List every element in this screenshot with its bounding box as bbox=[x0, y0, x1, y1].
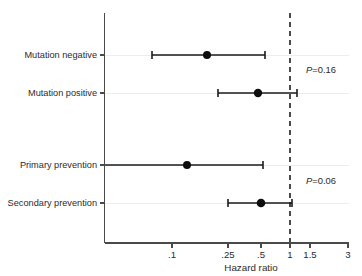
estimate-marker-row-4 bbox=[257, 199, 266, 208]
y-axis-ticks bbox=[100, 55, 105, 203]
estimate-marker-row-2 bbox=[254, 89, 262, 97]
x-tick-label-0.25: .25 bbox=[221, 249, 234, 260]
y-axis-label-mutation-negative: Mutation negative bbox=[24, 50, 97, 60]
x-axis-tick-labels: .1 .25 .5 1 1.5 3 bbox=[168, 249, 351, 260]
forest-row-mutation-negative bbox=[152, 51, 265, 59]
forest-row-primary-prevention bbox=[105, 161, 263, 169]
x-tick-label-0.1: .1 bbox=[168, 249, 176, 260]
pvalue-annotation-mutation-status: P=0.16 bbox=[306, 64, 336, 75]
x-tick-label-0.5: .5 bbox=[257, 249, 265, 260]
forest-row-mutation-positive bbox=[218, 89, 297, 97]
pvalue-annotation-prevention-type: P=0.06 bbox=[306, 175, 336, 186]
forest-plot-svg: Mutation negative Mutation positive Prim… bbox=[0, 0, 362, 276]
x-tick-label-1.5: 1.5 bbox=[303, 249, 316, 260]
x-axis-ticks bbox=[172, 243, 348, 248]
estimate-marker-row-1 bbox=[203, 51, 211, 59]
y-axis-label-secondary-prevention: Secondary prevention bbox=[8, 198, 97, 208]
y-axis-label-primary-prevention: Primary prevention bbox=[20, 160, 97, 170]
y-axis-label-mutation-positive: Mutation positive bbox=[28, 88, 97, 98]
pvalue-value-lower: =0.06 bbox=[312, 175, 336, 186]
pvalue-value-upper: =0.16 bbox=[312, 64, 336, 75]
x-tick-label-3: 3 bbox=[345, 249, 350, 260]
estimate-marker-row-3 bbox=[183, 161, 191, 169]
forest-row-secondary-prevention bbox=[228, 199, 292, 208]
forest-plot-figure: Mutation negative Mutation positive Prim… bbox=[0, 0, 362, 276]
x-tick-label-1: 1 bbox=[287, 249, 292, 260]
y-axis-labels: Mutation negative Mutation positive Prim… bbox=[8, 50, 97, 208]
x-axis-title: Hazard ratio bbox=[224, 262, 278, 273]
